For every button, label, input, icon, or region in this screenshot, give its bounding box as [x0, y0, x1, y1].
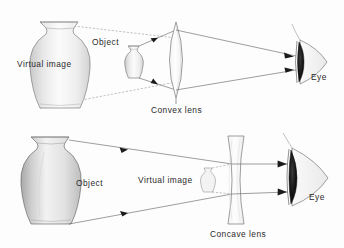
label-virtual-image-top: Virtual image: [17, 59, 72, 69]
diagram-canvas: Virtual image Object Convex lens: [0, 0, 344, 248]
ray-arrow-icon: [284, 67, 294, 72]
object-vase-top: [125, 46, 144, 78]
ray-arrow-icon: [284, 53, 294, 59]
optics-diagram-figure: Virtual image Object Convex lens: [0, 0, 344, 248]
concave-panel: Object Virtual image Concave lens: [21, 133, 328, 239]
label-concave-lens: Concave lens: [210, 229, 266, 239]
ray-arrow-icon: [278, 160, 287, 167]
object-vase-bottom: [21, 137, 81, 224]
virtual-image-vase-bottom: [201, 168, 216, 192]
concave-lens-icon: [228, 136, 244, 224]
label-virtual-image-bottom: Virtual image: [138, 175, 193, 185]
ray-arrow-icon: [151, 38, 159, 43]
lens-to-eye-rays-top: [176, 30, 296, 90]
label-eye-top: Eye: [311, 72, 327, 82]
convex-lens-icon: [170, 22, 183, 98]
label-convex-lens: Convex lens: [151, 105, 202, 115]
ray-arrow-icon: [151, 79, 158, 85]
label-eye-bottom: Eye: [309, 192, 325, 202]
convex-panel: Virtual image Object Convex lens: [17, 22, 327, 115]
ray-arrow-icon: [278, 189, 287, 196]
label-object-top: Object: [92, 37, 119, 47]
ray-arrow-icon: [120, 211, 128, 216]
label-object-bottom: Object: [76, 178, 103, 188]
